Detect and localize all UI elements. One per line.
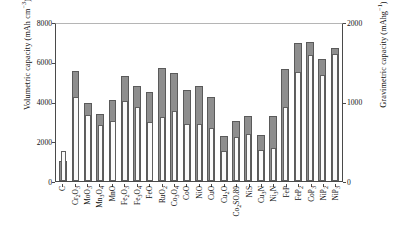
x-axis-tick-label: Mn3O4 — [95, 186, 104, 208]
x-axis-tick-label: NiO — [194, 186, 203, 199]
bar-group — [84, 24, 93, 181]
bar-gravimetric — [184, 124, 189, 181]
x-axis-tick: CoP3 — [306, 184, 315, 246]
x-axis-tick-label: CuO — [207, 186, 216, 200]
bar-gravimetric — [221, 151, 226, 181]
bar-gravimetric — [122, 101, 127, 181]
x-axis-tick: NiP3 — [331, 184, 340, 246]
x-axis-tick: Cu2O — [219, 184, 228, 246]
x-axis-tick-label: FeP2 — [294, 186, 303, 201]
x-axis-tick-label: CoO — [182, 186, 191, 200]
bar-gravimetric — [172, 111, 177, 181]
bar-gravimetric — [110, 121, 115, 181]
x-axis-tick: Co3O4 — [170, 184, 179, 246]
x-axis-tick: CuO — [207, 184, 216, 246]
bar-group — [145, 24, 154, 181]
bar-group — [281, 24, 290, 181]
x-axis-tick: Cu3N — [257, 184, 266, 246]
y-axis-left-title-exponent: −3 — [20, 2, 27, 9]
bar-gravimetric — [135, 107, 140, 181]
y-axis-right-tickmark — [343, 103, 346, 104]
x-axis-tick: Fe3O4 — [132, 184, 141, 246]
bar-gravimetric — [234, 137, 239, 181]
x-axis-tick-label: C — [58, 186, 67, 191]
x-axis-tick-label: CoP3 — [306, 186, 315, 202]
x-axis-tick: Ni3N — [269, 184, 278, 246]
bar-group — [207, 24, 216, 181]
bar-chart-figure: Volumetric capacity (mAh cm−3) Gravimetr… — [0, 0, 397, 247]
x-axis-tick: Co2SO.89 — [232, 184, 241, 246]
x-axis-tick: NiO — [195, 184, 204, 246]
bar-gravimetric — [320, 75, 325, 181]
y-axis-right-tick-label: 2000 — [347, 19, 387, 28]
bar-group — [59, 24, 68, 181]
y-axis-left-title-tail: ) — [23, 0, 32, 2]
x-axis-tick-label: Fe2O3 — [120, 186, 129, 205]
bar-group — [293, 24, 302, 181]
x-axis-tick: FeP — [282, 184, 291, 246]
x-axis-tick-label: NiP3 — [331, 186, 340, 201]
x-axis-tick: NiP2 — [319, 184, 328, 246]
bar-group — [121, 24, 130, 181]
bar-group — [306, 24, 315, 181]
y-axis-left-tick-label: 0 — [12, 178, 52, 187]
bar-group — [170, 24, 179, 181]
x-axis-tick-labels: CCr2O3MoO3Mn3O4MnOFe2O3Fe3O4FeORuO2Co3O4… — [55, 184, 343, 246]
x-axis-tick-label: Cu2O — [219, 186, 228, 203]
x-axis-tick: NiS — [244, 184, 253, 246]
x-axis-tick: CoO — [182, 184, 191, 246]
bar-group — [232, 24, 241, 181]
x-axis-tick-label: Ni3N — [269, 186, 278, 202]
x-axis-tick: MoO3 — [83, 184, 92, 246]
x-axis-tick: Mn3O4 — [95, 184, 104, 246]
bar-gravimetric — [258, 150, 263, 181]
x-axis-tick-label: Cu3N — [256, 186, 265, 203]
bar-gravimetric — [61, 151, 66, 181]
bar-gravimetric — [197, 124, 202, 181]
bar-gravimetric — [209, 128, 214, 181]
y-axis-left-tick-label: 2000 — [12, 138, 52, 147]
bar-gravimetric — [160, 117, 165, 181]
x-axis-tick-label: MnO — [107, 186, 116, 202]
x-axis-tick: C — [58, 184, 67, 246]
bar-gravimetric — [295, 72, 300, 181]
bar-group-container — [56, 24, 342, 181]
bar-group — [269, 24, 278, 181]
x-axis-tick-label: Co3O4 — [170, 186, 179, 206]
bar-group — [256, 24, 265, 181]
y-axis-left-tickmark — [52, 182, 55, 183]
x-axis-tick: MnO — [108, 184, 117, 246]
plot-area — [55, 23, 343, 182]
y-axis-right-title-tail: ) — [379, 1, 388, 4]
bar-gravimetric — [308, 55, 313, 181]
x-axis-tick-label: RuO2 — [157, 186, 166, 203]
bar-gravimetric — [85, 115, 90, 181]
y-axis-right-tick-label: 1000 — [347, 98, 387, 107]
bar-group — [71, 24, 80, 181]
y-axis-right-title-exponent: −1 — [376, 4, 383, 11]
bar-group — [244, 24, 253, 181]
x-axis-tick-label: FeO — [145, 186, 154, 199]
bar-group — [330, 24, 339, 181]
bar-gravimetric — [283, 107, 288, 181]
y-axis-right-tick-label: 0 — [347, 178, 387, 187]
x-axis-tick-label: FeP — [281, 186, 290, 198]
bar-group — [108, 24, 117, 181]
y-axis-left-tick-label: 4000 — [12, 98, 52, 107]
y-axis-right-tickmark — [343, 23, 346, 24]
x-axis-tick: RuO2 — [157, 184, 166, 246]
x-axis-tick: Cr2O3 — [70, 184, 79, 246]
x-axis-tick-label: Fe3O4 — [132, 186, 141, 205]
y-axis-left-tick-label: 8000 — [12, 19, 52, 28]
x-axis-tick: Fe2O3 — [120, 184, 129, 246]
x-axis-tick-label: MoO3 — [83, 186, 92, 205]
x-axis-tick: FeO — [145, 184, 154, 246]
bar-gravimetric — [271, 148, 276, 181]
bar-gravimetric — [98, 125, 103, 181]
y-axis-left-tick-label: 6000 — [12, 58, 52, 67]
x-axis-tick-label: Cr2O3 — [70, 186, 79, 205]
bar-group — [195, 24, 204, 181]
bar-group — [318, 24, 327, 181]
bar-group — [158, 24, 167, 181]
y-axis-right-tickmark — [343, 182, 346, 183]
